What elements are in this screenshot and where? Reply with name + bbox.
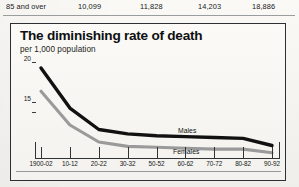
x-axis-tick-10-12 <box>70 147 71 158</box>
chart-panel: The diminishing rate of death per 1,000 … <box>10 23 286 181</box>
series-line-males <box>41 68 272 146</box>
x-axis-label-30-32: 30-32 <box>120 160 136 167</box>
chart-subtitle: per 1,000 population <box>20 45 96 54</box>
table-row-label: 85 and over <box>6 1 46 12</box>
x-axis-label-1900-02: 1900-02 <box>30 160 53 167</box>
table-row: 85 and over 10,099 11,828 14,203 18,886 <box>0 0 299 14</box>
x-axis-label-70-72: 70-72 <box>206 160 222 167</box>
series-label-males: Males <box>178 127 196 134</box>
x-axis-label-60-62: 60-62 <box>177 160 193 167</box>
x-axis-label-50-52: 50-52 <box>149 160 165 167</box>
series-line-females <box>41 91 272 153</box>
x-axis-label-20-22: 20-22 <box>91 160 107 167</box>
x-axis-tick-60-62 <box>185 147 186 158</box>
x-axis-tick-90-92 <box>272 147 273 158</box>
x-axis-label-90-92: 90-92 <box>264 160 280 167</box>
table-bottom-rule <box>3 15 295 16</box>
panel-bottom-rule <box>16 171 281 172</box>
chart-title: The diminishing rate of death <box>20 28 202 43</box>
table-cell-value-2: 11,828 <box>140 1 163 12</box>
y-axis-label-20: 20 <box>17 55 31 62</box>
table-cell-value-4: 18,886 <box>252 1 275 12</box>
series-lines <box>35 60 278 158</box>
plot-area <box>35 60 278 158</box>
x-axis-tick-30-32 <box>128 147 129 158</box>
scanned-page: 85 and over 10,099 11,828 14,203 18,886 … <box>0 0 299 187</box>
x-axis-label-80-82: 80-82 <box>235 160 251 167</box>
x-axis-left-cap <box>35 142 36 159</box>
x-axis-line <box>35 158 280 159</box>
x-axis-tick-20-22 <box>99 147 100 158</box>
x-axis-tick-80-82 <box>243 147 244 158</box>
x-axis-tick-1900-02 <box>41 147 42 158</box>
table-cell-value-3: 14,203 <box>198 1 221 12</box>
x-axis-tick-50-52 <box>157 147 158 158</box>
table-strip: 85 and over 10,099 11,828 14,203 18,886 <box>0 0 299 20</box>
x-axis-tick-70-72 <box>214 147 215 158</box>
y-axis-label-15: 15 <box>17 95 31 102</box>
table-cell-value-1: 10,099 <box>78 1 101 12</box>
x-axis-right-cap <box>279 142 280 159</box>
x-axis-label-10-12: 10-12 <box>62 160 78 167</box>
